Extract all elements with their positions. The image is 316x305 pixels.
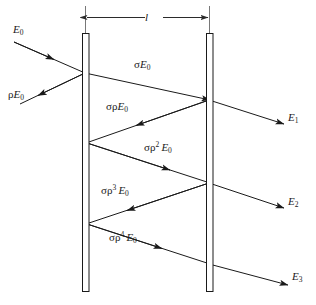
output-ray-1 xyxy=(209,100,284,124)
thickness-label: l xyxy=(145,11,148,23)
internal-ray-1 xyxy=(86,100,209,143)
reflected-ray xyxy=(20,73,85,104)
label-internal-4: σρ4 E0 xyxy=(109,232,137,243)
optics-ray-diagram: l E0 ρE0 σE0 σρE0 σρ2 E0 σρ3 E0 σρ4 E0 E… xyxy=(0,0,316,305)
label-output-E2: E2 xyxy=(288,196,298,207)
label-internal-1: σρE0 xyxy=(106,101,128,112)
output-ray-2 xyxy=(209,183,284,208)
right-plate xyxy=(207,34,214,292)
label-incident-base: E xyxy=(13,23,20,35)
label-reflected-rhoE0: ρE0 xyxy=(8,89,24,100)
label-incident-sub: 0 xyxy=(20,28,24,37)
label-output-E1: E1 xyxy=(288,112,298,123)
left-plate xyxy=(83,34,90,292)
label-transmitted-sigmaE0: σE0 xyxy=(134,59,150,70)
incident-ray xyxy=(14,42,85,73)
label-output-E3: E3 xyxy=(292,271,302,282)
label-internal-3: σρ3 E0 xyxy=(101,185,129,196)
label-internal-2: σρ2 E0 xyxy=(144,142,172,153)
label-incident-E0: E0 xyxy=(13,24,23,35)
internal-ray-4 xyxy=(87,224,210,264)
output-ray-3 xyxy=(209,264,288,285)
transmitted-ray-1 xyxy=(85,73,210,100)
